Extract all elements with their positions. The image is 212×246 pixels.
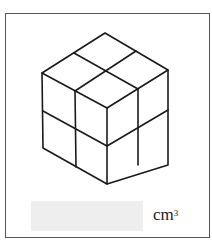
unit-label: cm3 [153,205,178,225]
unit-base: cm [153,205,174,224]
volume-answer-input[interactable] [31,201,143,231]
unit-exponent: 3 [174,208,179,218]
